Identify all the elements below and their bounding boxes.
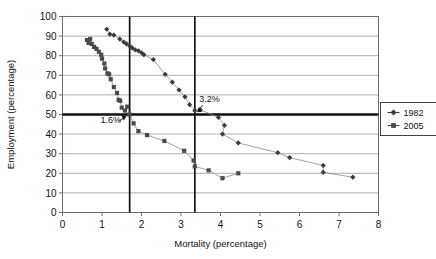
data-point-2005[interactable] [99, 53, 103, 57]
y-axis-tick-label: 0 [51, 207, 57, 218]
x-axis-tick-label: 7 [336, 219, 342, 230]
x-axis-tick-label: 3 [178, 219, 184, 230]
chart-container: 0123456780102030405060708090100Mortality… [0, 0, 436, 259]
data-point-2005[interactable] [145, 133, 149, 137]
data-point-2005[interactable] [128, 112, 132, 116]
y-axis-tick-label: 30 [45, 148, 57, 159]
y-axis-tick-label: 100 [40, 11, 57, 22]
data-point-2005[interactable] [88, 37, 92, 41]
data-point-2005[interactable] [207, 168, 211, 172]
data-point-2005[interactable] [123, 108, 127, 112]
x-axis-tick-label: 2 [139, 219, 145, 230]
data-point-2005[interactable] [236, 171, 240, 175]
y-axis-tick-label: 90 [45, 31, 57, 42]
data-point-1982[interactable] [321, 163, 326, 168]
data-point-2005[interactable] [192, 158, 196, 162]
x-axis-tick-label: 4 [218, 219, 224, 230]
annotation-arrowhead [121, 115, 126, 120]
y-axis-tick-label: 20 [45, 168, 57, 179]
data-point-2005[interactable] [132, 121, 136, 125]
data-point-2005[interactable] [182, 149, 186, 153]
x-axis-tick-label: 0 [60, 219, 66, 230]
y-axis-tick-label: 80 [45, 50, 57, 61]
data-point-2005[interactable] [115, 91, 119, 95]
x-axis-title: Mortality (percentage) [174, 238, 266, 249]
y-axis-tick-label: 70 [45, 70, 57, 81]
annotation-label-3.2%: 3.2% [199, 94, 220, 104]
y-axis-tick-label: 40 [45, 129, 57, 140]
data-point-2005[interactable] [102, 61, 106, 65]
data-point-1982[interactable] [104, 27, 109, 32]
mortality-employment-scatter-chart: 0123456780102030405060708090100Mortality… [0, 0, 436, 259]
legend-label-1982[interactable]: 1982 [404, 108, 424, 118]
data-point-2005[interactable] [103, 66, 107, 70]
data-point-1982[interactable] [321, 170, 326, 175]
y-axis-tick-label: 10 [45, 188, 57, 199]
data-point-2005[interactable] [107, 72, 111, 76]
data-point-2005[interactable] [118, 99, 122, 103]
data-point-2005[interactable] [100, 57, 104, 61]
y-axis-title: Employment (percentage) [5, 60, 16, 169]
series-line-2005 [87, 39, 238, 178]
annotation-label-1.6%: 1.6% [100, 115, 121, 125]
legend-marker-2005 [391, 123, 396, 128]
y-axis-tick-label: 60 [45, 90, 57, 101]
data-point-2005[interactable] [109, 77, 113, 81]
data-point-1982[interactable] [350, 175, 355, 180]
data-point-2005[interactable] [125, 105, 129, 109]
data-point-2005[interactable] [162, 139, 166, 143]
y-axis-tick-label: 50 [45, 109, 57, 120]
data-point-1982[interactable] [287, 155, 292, 160]
x-axis-tick-label: 6 [297, 219, 303, 230]
data-point-2005[interactable] [220, 176, 224, 180]
data-point-1982[interactable] [275, 150, 280, 155]
data-point-1982[interactable] [111, 33, 116, 38]
x-axis-tick-label: 5 [257, 219, 263, 230]
data-point-1982[interactable] [220, 132, 225, 137]
data-point-2005[interactable] [112, 85, 116, 89]
x-axis-tick-label: 1 [99, 219, 105, 230]
data-point-2005[interactable] [193, 164, 197, 168]
data-point-1982[interactable] [236, 140, 241, 145]
legend-label-2005[interactable]: 2005 [404, 121, 424, 131]
x-axis-tick-label: 8 [376, 219, 382, 230]
series-line-1982 [107, 29, 353, 177]
data-point-2005[interactable] [136, 129, 140, 133]
